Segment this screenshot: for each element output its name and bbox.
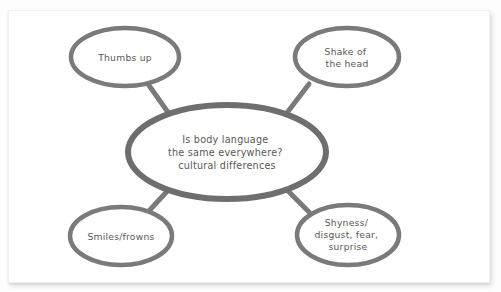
node-thumbs-up[interactable]: Thumbs up (71, 28, 179, 86)
node-shyness-disgust-fear-surprise[interactable]: Shyness/ disgust, fear, surprise (297, 205, 399, 265)
node-central-question[interactable]: Is body language the same everywhere? cu… (128, 105, 326, 199)
node-smiles-frowns[interactable]: Smiles/frowns (70, 207, 172, 265)
mind-map-diagram: Thumbs up Shake of the head Is body lang… (0, 0, 501, 292)
screenshot-root: Thumbs up Shake of the head Is body lang… (0, 0, 501, 292)
node-shake-of-the-head-label: Shake of the head (325, 46, 370, 69)
node-smiles-frowns-label: Smiles/frowns (87, 230, 154, 241)
node-central-question-label: Is body language the same everywhere? cu… (168, 134, 286, 171)
node-shake-of-the-head[interactable]: Shake of the head (295, 28, 399, 86)
node-thumbs-up-label: Thumbs up (97, 51, 152, 62)
